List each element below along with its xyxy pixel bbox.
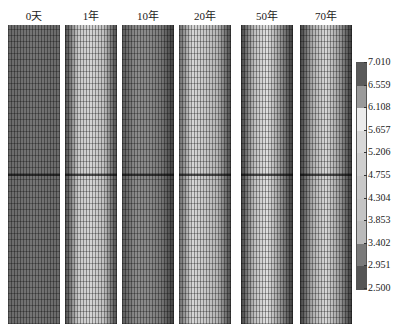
colorbar-tick-label: 3.402 — [368, 237, 391, 248]
colorbar-tick-label: 6.559 — [368, 79, 391, 90]
panel-contour — [179, 25, 231, 324]
colorbar-segment — [357, 176, 366, 199]
colorbar-tick-label: 2.500 — [368, 282, 391, 293]
joint-line — [122, 174, 174, 176]
colorbar-segment — [357, 199, 366, 222]
panel-title: 50年 — [241, 7, 293, 23]
colorbar-segment — [357, 63, 366, 86]
panel-title: 20年 — [179, 7, 231, 23]
panel-contour — [241, 25, 293, 324]
colorbar-tick-label: 4.304 — [368, 192, 391, 203]
colorbar-tick-label: 5.657 — [368, 124, 391, 135]
panel-contour — [300, 25, 352, 324]
panel-title: 0天 — [8, 7, 60, 23]
colorbar-tick — [364, 198, 367, 199]
colorbar-tick-label: 3.853 — [368, 214, 391, 225]
colorbar — [356, 62, 367, 290]
colorbar-segment — [357, 266, 366, 289]
colorbar-segment — [357, 153, 366, 176]
colorbar-segment — [357, 221, 366, 244]
panel-contour — [122, 25, 174, 324]
colorbar-segment — [357, 244, 366, 267]
colorbar-tick — [364, 85, 367, 86]
colorbar-tick — [364, 152, 367, 153]
joint-line — [241, 174, 293, 176]
joint-line — [8, 174, 60, 176]
panel-title: 10年 — [122, 7, 174, 23]
colorbar-tick — [364, 243, 367, 244]
colorbar-tick — [364, 175, 367, 176]
colorbar-tick — [364, 265, 367, 266]
colorbar-segment — [357, 131, 366, 154]
colorbar-tick-label: 4.755 — [368, 169, 391, 180]
colorbar-tick-label: 5.206 — [368, 146, 391, 157]
joint-line — [300, 174, 352, 176]
panel-contour — [65, 25, 117, 324]
colorbar-segment — [357, 108, 366, 131]
colorbar-tick — [364, 107, 367, 108]
joint-line — [65, 174, 117, 176]
panel-contour — [8, 25, 60, 324]
colorbar-segment — [357, 86, 366, 109]
colorbar-tick — [364, 62, 367, 63]
colorbar-tick — [364, 220, 367, 221]
colorbar-tick-label: 7.010 — [368, 56, 391, 67]
colorbar-tick — [364, 130, 367, 131]
joint-line — [179, 174, 231, 176]
colorbar-tick-label: 6.108 — [368, 101, 391, 112]
panel-title: 70年 — [300, 7, 352, 23]
colorbar-tick — [364, 288, 367, 289]
panel-title: 1年 — [65, 7, 117, 23]
colorbar-tick-label: 2.951 — [368, 259, 391, 270]
